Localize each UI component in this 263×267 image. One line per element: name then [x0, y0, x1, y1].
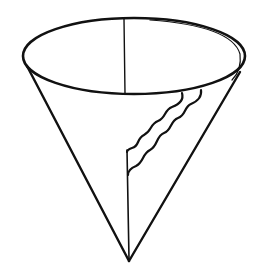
- rim-inner-edge: [150, 20, 240, 80]
- rim-center-line: [124, 19, 125, 94]
- cone-left-side: [27, 66, 129, 261]
- cone-cup-drawing: [0, 0, 263, 267]
- wavy-edge-lower: [128, 90, 201, 175]
- cone-seam: [127, 150, 129, 259]
- cone-cup-figure: paper cone cup line drawing: [0, 0, 263, 267]
- cone-right-side: [129, 72, 240, 261]
- wavy-edge-upper: [127, 93, 183, 152]
- cup-rim: [23, 18, 245, 94]
